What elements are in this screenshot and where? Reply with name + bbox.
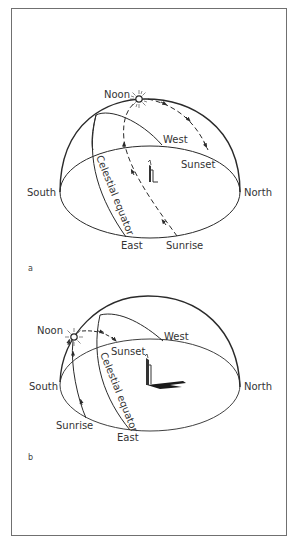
label-east: East bbox=[121, 240, 143, 251]
label-sunset: Sunset bbox=[181, 159, 215, 170]
shadow-shape bbox=[147, 381, 186, 389]
label-south: South bbox=[27, 187, 56, 198]
label-east: East bbox=[117, 432, 139, 443]
sun-icon bbox=[65, 328, 83, 346]
sun-path-rising bbox=[72, 341, 86, 418]
label-north: North bbox=[244, 187, 272, 198]
sun-path-setting bbox=[82, 331, 115, 341]
label-north: North bbox=[244, 381, 272, 392]
panel-label-b: b bbox=[28, 453, 33, 462]
label-sunrise: Sunrise bbox=[166, 240, 203, 251]
label-west: West bbox=[164, 331, 189, 342]
label-celestial-equator: Celestial equator bbox=[94, 154, 136, 238]
panel-b: Noon West Sunset South North East Sunris… bbox=[28, 296, 272, 462]
observer-figure-icon bbox=[148, 160, 158, 182]
dome-outline bbox=[60, 296, 240, 387]
label-celestial-equator: Celestial equator bbox=[98, 351, 140, 435]
label-noon: Noon bbox=[104, 89, 130, 100]
panel-label-a: a bbox=[28, 264, 33, 273]
label-noon: Noon bbox=[37, 325, 63, 336]
label-sunrise: Sunrise bbox=[56, 420, 93, 431]
sun-icon bbox=[130, 90, 148, 108]
label-sunset: Sunset bbox=[111, 346, 145, 357]
label-west: West bbox=[163, 134, 188, 145]
label-south: South bbox=[29, 381, 58, 392]
observer-figure-icon bbox=[145, 354, 151, 385]
panel-a: Noon West Sunset South North East Sunris… bbox=[27, 89, 272, 273]
sun-path-diagram: Noon West Sunset South North East Sunris… bbox=[0, 0, 294, 544]
